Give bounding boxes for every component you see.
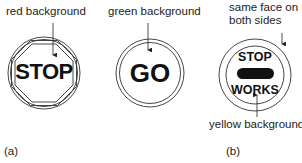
stop-works-bottom-text: WORKS [228,83,282,97]
diagram: red background green background same fac… [0,0,302,163]
black-bar [237,68,274,79]
caption-b: (b) [226,145,240,158]
stop-text: STOP [14,59,74,85]
same-face-label-line1: same face on [229,1,298,14]
red-background-label: red background [6,5,86,18]
yellow-background-label: yellow background [209,118,302,131]
stop-works-top-text: STOP [230,50,280,64]
green-background-label: green background [108,5,201,18]
same-face-label-line2: both sides [229,14,281,27]
caption-a: (a) [4,145,18,158]
go-text: GO [125,58,175,89]
